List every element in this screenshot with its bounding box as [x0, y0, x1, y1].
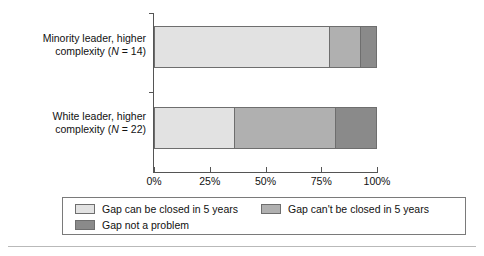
bar-segment-gap-can-be-closed	[154, 26, 329, 68]
category-label-white-leader: White leader, higher complexity (N = 22)	[14, 110, 146, 136]
bar-segment-gap-can-be-closed	[154, 107, 234, 149]
bottom-divider-rule	[8, 246, 476, 247]
category-label-line2-post: = 14)	[119, 45, 146, 57]
legend-item-gap-can-be-closed: Gap can be closed in 5 years	[75, 202, 238, 216]
y-axis-tick-middle	[149, 92, 154, 93]
x-axis-tick-mark	[210, 167, 211, 172]
x-axis-tick-label: 75%	[311, 175, 332, 187]
legend-swatch-icon-dark	[75, 220, 95, 230]
bar-row-white-leader	[154, 107, 377, 149]
legend-label: Gap can't be closed in 5 years	[288, 203, 429, 215]
x-axis-tick-label: 25%	[199, 175, 220, 187]
category-label-line2-italic-n: N	[111, 45, 119, 57]
bar-segment-gap-not-a-problem	[335, 107, 377, 149]
legend-item-gap-cant-be-closed: Gap can't be closed in 5 years	[261, 202, 429, 216]
category-label-line2-pre: complexity (	[55, 123, 111, 135]
x-axis-tick-mark	[321, 167, 322, 172]
y-axis-tick-top	[149, 13, 154, 14]
category-label-minority-leader: Minority leader, higher complexity (N = …	[14, 32, 146, 58]
x-axis-tick-mark	[266, 167, 267, 172]
x-axis-tick-label: 100%	[364, 175, 391, 187]
legend-label: Gap not a problem	[102, 219, 189, 231]
category-label-line2-pre: complexity (	[55, 45, 111, 57]
x-axis-line	[154, 172, 378, 173]
category-label-line2-post: = 22)	[119, 123, 146, 135]
x-axis-tick-label: 50%	[255, 175, 276, 187]
x-axis-tick-label: 0%	[146, 175, 161, 187]
bar-row-minority-leader	[154, 26, 377, 68]
stacked-bar-chart-figure: Minority leader, higher complexity (N = …	[0, 0, 484, 256]
chart-legend: Gap can be closed in 5 years Gap can't b…	[62, 197, 466, 235]
category-label-line1: Minority leader, higher	[43, 32, 146, 44]
legend-label: Gap can be closed in 5 years	[102, 203, 238, 215]
bar-segment-gap-not-a-problem	[360, 26, 377, 68]
legend-item-gap-not-a-problem: Gap not a problem	[75, 218, 189, 232]
x-axis-tick-mark	[377, 167, 378, 172]
bar-segment-gap-cant-be-closed	[329, 26, 360, 68]
legend-swatch-icon-light	[75, 204, 95, 214]
category-label-line1: White leader, higher	[53, 110, 146, 122]
x-axis-tick-mark	[154, 167, 155, 172]
bar-segment-gap-cant-be-closed	[234, 107, 334, 149]
category-label-line2-italic-n: N	[111, 123, 119, 135]
legend-swatch-icon-medium	[261, 204, 281, 214]
